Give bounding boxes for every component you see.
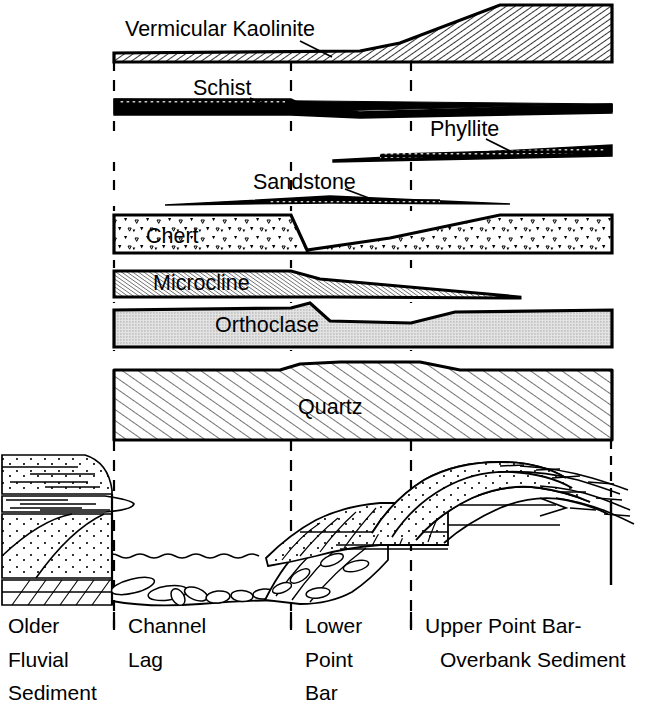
lag-clast-6: [231, 590, 254, 603]
figure-root: Vermicular Kaolinite Schist Phyllite San…: [0, 0, 652, 706]
zone-upper-point-bar-line-1: Upper Point Bar-: [425, 614, 581, 637]
orthoclase-label: Orthoclase: [215, 313, 319, 337]
phyllite-label: Phyllite: [430, 117, 499, 141]
band-quartz: [114, 362, 612, 440]
zone-channel-lag-line-2: Lag: [128, 648, 163, 671]
zone-channel-lag-line-1: Channel: [128, 614, 206, 637]
water-surface-line: [105, 554, 259, 558]
vermicular-kaolinite-label: Vermicular Kaolinite: [125, 17, 315, 41]
microcline-label: Microcline: [153, 271, 250, 295]
zone-lower-point-bar-line-3: Bar: [305, 681, 338, 704]
quartz-shape: [114, 362, 612, 440]
mineral-profile-figure: Vermicular Kaolinite Schist Phyllite San…: [0, 0, 652, 706]
sandstone-label: Sandstone: [253, 170, 356, 194]
zone-older-fluvial-sediment-line-1: Older: [8, 614, 59, 637]
zone-captions: Older Fluvial Sediment Channel Lag Lower…: [8, 614, 626, 704]
ofs-crossbed-unit: [2, 514, 112, 578]
schist-label: Schist: [193, 76, 252, 100]
zone-older-fluvial-sediment-line-3: Sediment: [8, 681, 97, 704]
point-bar-cross-section: [2, 454, 634, 608]
upper-point-bar-overbank-unit: [372, 462, 634, 543]
lag-clast-4: [183, 584, 210, 603]
zone-upper-point-bar-line-2: Overbank Sediment: [440, 648, 626, 671]
chert-label: Chert: [146, 224, 199, 248]
zone-lower-point-bar-line-2: Point: [305, 648, 353, 671]
upb-point-nose: [540, 498, 566, 516]
zone-lower-point-bar-line-1: Lower: [305, 614, 362, 637]
zone-older-fluvial-sediment-line-2: Fluvial: [8, 648, 69, 671]
quartz-label: Quartz: [298, 395, 363, 419]
